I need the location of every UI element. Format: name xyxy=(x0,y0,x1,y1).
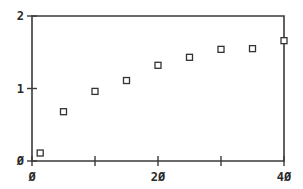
x-tick-label: Ø xyxy=(27,170,36,184)
data-points xyxy=(37,38,287,156)
square-marker xyxy=(37,150,43,156)
scatter-chart: Ø2Ø4Ø Ø12 xyxy=(0,0,303,189)
plot-border xyxy=(32,16,284,161)
y-axis-ticks: Ø12 xyxy=(16,9,37,168)
square-marker xyxy=(281,38,287,44)
square-marker xyxy=(187,54,193,60)
square-marker xyxy=(155,62,161,68)
square-marker xyxy=(250,46,256,52)
x-tick-label: 2Ø xyxy=(151,170,166,184)
y-tick-label: 1 xyxy=(17,82,24,96)
x-tick-label: 4Ø xyxy=(277,170,292,184)
square-marker xyxy=(61,109,67,115)
plot-frame xyxy=(32,16,284,161)
square-marker xyxy=(124,78,130,84)
y-tick-label: Ø xyxy=(16,154,25,168)
y-tick-label: 2 xyxy=(17,9,24,23)
square-marker xyxy=(92,88,98,94)
square-marker xyxy=(218,46,224,52)
